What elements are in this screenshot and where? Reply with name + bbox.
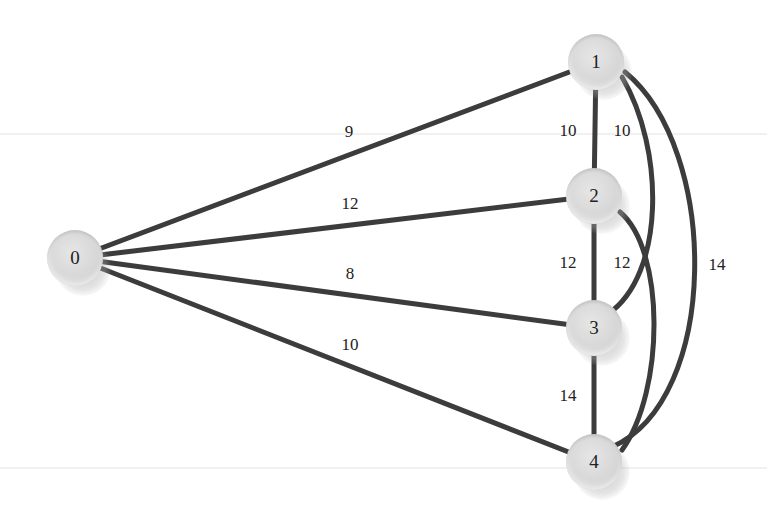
node-label: 0 xyxy=(47,230,103,286)
edge-weight-3-4: 14 xyxy=(560,386,577,406)
edge-weight-2-4: 12 xyxy=(614,253,631,273)
edge-weight-0-3: 8 xyxy=(346,264,355,284)
edge-0-4 xyxy=(75,258,594,462)
graph-node-3: 3 xyxy=(566,300,622,356)
edge-0-3 xyxy=(75,258,594,328)
graph-node-2: 2 xyxy=(566,168,622,224)
edges-layer xyxy=(0,0,767,522)
edge-weight-1-2: 10 xyxy=(560,121,577,141)
edge-weight-0-2: 12 xyxy=(342,194,359,214)
node-label: 4 xyxy=(566,434,622,490)
edge-weight-1-3: 10 xyxy=(614,121,631,141)
node-label: 3 xyxy=(566,300,622,356)
graph-node-4: 4 xyxy=(566,434,622,490)
edge-weight-0-4: 10 xyxy=(342,335,359,355)
edge-weight-2-3: 12 xyxy=(560,253,577,273)
edge-weight-0-1: 9 xyxy=(345,122,354,142)
edge-weight-1-4: 14 xyxy=(709,255,726,275)
graph-node-0: 0 xyxy=(47,230,103,286)
graph-node-1: 1 xyxy=(568,34,624,90)
node-label: 2 xyxy=(566,168,622,224)
node-label: 1 xyxy=(568,34,624,90)
graph-diagram: 912810101014121214 01234 xyxy=(0,0,767,522)
